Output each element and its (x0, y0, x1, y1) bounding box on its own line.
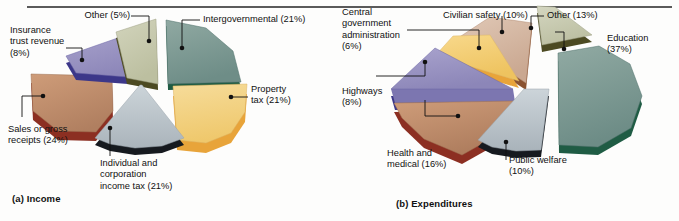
caption-income: (a) Income (12, 193, 61, 204)
label-exp-civilian-safety: Civilian safety (10%) (443, 10, 528, 21)
label-exp-education: Education (37%) (607, 33, 648, 56)
label-exp-public-welfare: Public welfare (10%) (509, 155, 567, 178)
label-income-intergovernmental: Intergovernmental (21%) (203, 14, 305, 25)
slice-education (558, 46, 642, 155)
label-exp-central-government-administration: Central government administration (6%) (342, 7, 412, 53)
label-exp-other: Other (13%) (547, 10, 598, 21)
slice-intergovernmental (166, 20, 241, 90)
label-income-insurance-trust-revenue: Insurance trust revenue (8%) (10, 25, 70, 59)
label-exp-highways: Highways (8%) (342, 86, 382, 109)
caption-expenditures: (b) Expenditures (396, 198, 473, 209)
label-income-individual-corporation-income-tax: Individual and corporation income tax (2… (100, 158, 172, 192)
slice-property-tax (173, 84, 247, 153)
label-income-property-tax: Property tax (21%) (251, 84, 291, 107)
panel-income: Other (5%) Insurance trust revenue (8%) … (0, 0, 340, 221)
label-income-other: Other (5%) (60, 10, 130, 21)
panel-expenditures: Central government administration (6%) C… (339, 0, 679, 221)
label-exp-health-and-medical: Health and medical (16%) (387, 148, 446, 171)
figure-pie-charts: Other (5%) Insurance trust revenue (8%) … (0, 0, 679, 221)
label-income-sales-or-gross-receipts: Sales or gross receipts (24%) (8, 124, 68, 147)
